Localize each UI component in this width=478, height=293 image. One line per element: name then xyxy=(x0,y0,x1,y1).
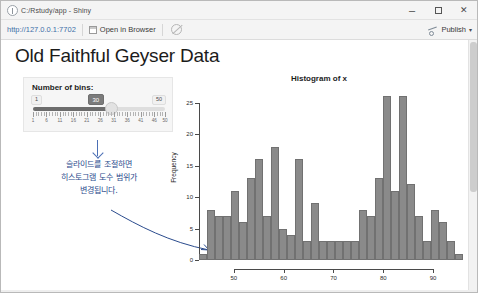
slider-tick xyxy=(122,112,123,116)
histogram-bar xyxy=(215,216,223,260)
slider-tick-label: 31 xyxy=(111,118,116,123)
slider-tick xyxy=(65,112,66,116)
status-bar xyxy=(1,290,477,292)
browser-window-icon xyxy=(89,26,97,34)
slider-tick xyxy=(143,112,144,116)
y-tick-label: 10 xyxy=(179,194,193,200)
histogram-bar xyxy=(423,241,431,260)
publish-button[interactable]: Publish ▾ xyxy=(428,25,472,34)
slider-tick xyxy=(98,112,99,116)
histogram-bar xyxy=(199,254,207,260)
slider-tick xyxy=(87,112,88,117)
x-tick xyxy=(383,269,384,273)
slider-tick xyxy=(76,112,77,116)
slider-tick xyxy=(60,112,61,117)
slider-tick xyxy=(33,112,34,117)
slider-tick-label: 36 xyxy=(125,118,130,123)
histogram-bar xyxy=(383,96,391,260)
histogram-bar xyxy=(431,210,439,260)
refresh-icon[interactable] xyxy=(171,24,182,35)
histogram-bar xyxy=(239,222,247,260)
arrow-down-icon xyxy=(97,140,98,156)
slider-tick xyxy=(38,112,39,116)
histogram-bar xyxy=(263,216,271,260)
histogram-bar xyxy=(319,241,327,260)
slider-tick xyxy=(162,112,163,116)
histogram-bar xyxy=(279,229,287,260)
close-button[interactable]: ✕ xyxy=(451,1,477,20)
slider-tick xyxy=(95,112,96,116)
slider-tick xyxy=(135,112,136,116)
histogram-bar xyxy=(359,210,367,260)
window-title: C:/Rstudy/app - Shiny xyxy=(21,7,91,14)
slider-tick-label: 26 xyxy=(98,118,103,123)
slider-tick-labels: 16111621263136414650 xyxy=(33,118,165,126)
x-tick-label: 60 xyxy=(280,275,287,281)
slider-tick xyxy=(79,112,80,116)
histogram-plot: Histogram of x Frequency 051015202550607… xyxy=(169,68,469,290)
histogram-bar xyxy=(303,241,311,260)
slider-track[interactable] xyxy=(33,107,165,111)
slider-tick xyxy=(106,112,107,116)
histogram-bar xyxy=(255,159,263,260)
y-tick-label: 5 xyxy=(179,226,193,232)
histogram-bar xyxy=(311,203,319,260)
annotation-text: 슬라이드를 조절하면 히스토그램 도수 범위가 변경됩니다. xyxy=(29,158,169,197)
slider-tick xyxy=(57,112,58,116)
slider-tick xyxy=(36,112,37,116)
open-in-browser-button[interactable]: Open in Browser xyxy=(89,25,156,34)
y-tick xyxy=(195,166,199,167)
slider-tick xyxy=(63,112,64,116)
y-tick-label: 25 xyxy=(179,100,193,106)
chevron-down-icon[interactable]: ▾ xyxy=(469,26,472,33)
histogram-bar xyxy=(415,216,423,260)
histogram-bar xyxy=(327,241,335,260)
slider-tick xyxy=(125,112,126,116)
histogram-bar xyxy=(271,147,279,260)
histogram-bar xyxy=(367,216,375,260)
plot-area: 05101520255060708090 xyxy=(169,68,469,290)
x-tick xyxy=(433,269,434,273)
slider-tick xyxy=(133,112,134,116)
histogram-bar xyxy=(447,241,455,260)
slider-tick-label: 1 xyxy=(32,118,35,123)
slider-tick xyxy=(152,112,153,116)
slider-tick xyxy=(127,112,128,117)
histogram-bar xyxy=(455,254,463,260)
scrollbar-thumb[interactable] xyxy=(470,42,477,192)
y-tick xyxy=(195,260,199,261)
slider-max-label: 50 xyxy=(152,95,166,105)
x-tick-label: 70 xyxy=(330,275,337,281)
histogram-bar xyxy=(351,241,359,260)
maximize-icon xyxy=(435,7,442,14)
slider-tick xyxy=(100,112,101,117)
y-tick xyxy=(195,134,199,135)
slider-tick xyxy=(138,112,139,116)
histogram-bar xyxy=(231,191,239,260)
slider-tick xyxy=(49,112,50,116)
slider-tick xyxy=(157,112,158,116)
slider-tick xyxy=(146,112,147,116)
app-url-link[interactable]: http://127.0.0.1:7702 xyxy=(7,25,76,34)
histogram-bar xyxy=(407,184,415,260)
toolbar-divider-2 xyxy=(162,24,163,36)
vertical-scrollbar[interactable] xyxy=(468,40,477,292)
slider-tick xyxy=(46,112,47,117)
window-controls: – ✕ xyxy=(399,1,477,20)
slider-tick-label: 41 xyxy=(138,118,143,123)
slider-tick xyxy=(44,112,45,116)
shiny-app-icon xyxy=(7,5,18,16)
slider-tick-label: 11 xyxy=(58,118,63,123)
annotation-line-3: 변경됩니다. xyxy=(29,184,169,197)
y-tick xyxy=(195,197,199,198)
slider-label: Number of bins: xyxy=(32,83,93,92)
open-in-browser-label: Open in Browser xyxy=(100,25,156,34)
y-tick-label: 20 xyxy=(179,131,193,137)
y-tick-label: 15 xyxy=(179,163,193,169)
maximize-button[interactable] xyxy=(425,1,451,20)
slider-tick-label: 50 xyxy=(162,118,167,123)
histogram-bar xyxy=(439,222,447,260)
minimize-button[interactable]: – xyxy=(399,1,425,20)
slider-tick xyxy=(119,112,120,116)
annotation-line-1: 슬라이드를 조절하면 xyxy=(29,158,169,171)
